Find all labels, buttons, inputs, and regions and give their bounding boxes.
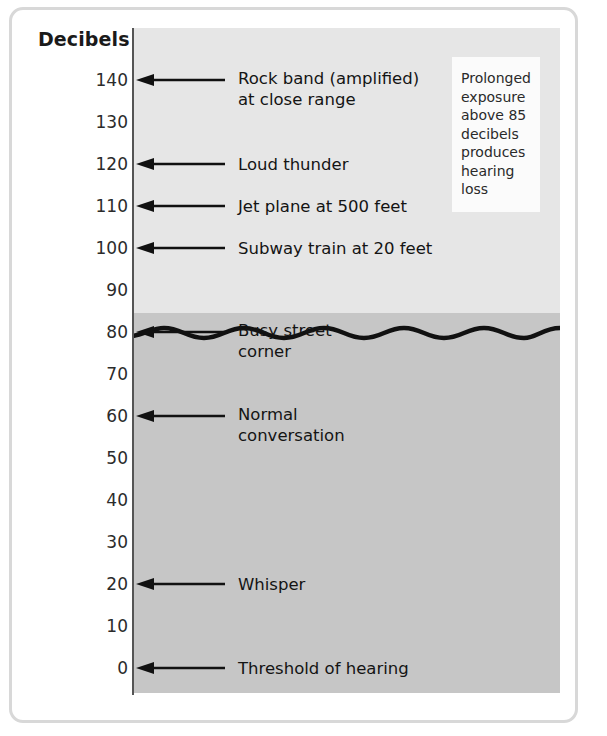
annotation-jet-plane: Jet plane at 500 feet (238, 196, 407, 217)
annotation-normal-conversation: Normal conversation (238, 404, 345, 446)
annotation-subway-train: Subway train at 20 feet (238, 238, 432, 259)
y-tick-60: 60 (36, 406, 128, 426)
y-tick-90: 90 (36, 280, 128, 300)
y-tick-100: 100 (36, 238, 128, 258)
y-tick-70: 70 (36, 364, 128, 384)
annotation-whisper: Whisper (238, 574, 305, 595)
y-tick-120: 120 (36, 154, 128, 174)
y-axis-tick-labels: 140 130 120 110 100 90 80 70 60 50 40 30… (28, 0, 128, 736)
callout-text: Prolonged exposure above 85 decibels pro… (461, 69, 540, 199)
threshold-wavy-line (133, 290, 560, 350)
y-tick-130: 130 (36, 112, 128, 132)
y-tick-50: 50 (36, 448, 128, 468)
callout-box: Prolonged exposure above 85 decibels pro… (452, 57, 540, 212)
annotation-loud-thunder: Loud thunder (238, 154, 348, 175)
decibel-scale-figure: Decibels 140 130 120 110 100 90 80 70 60… (0, 0, 607, 736)
y-tick-80: 80 (36, 322, 128, 342)
y-tick-30: 30 (36, 532, 128, 552)
y-tick-40: 40 (36, 490, 128, 510)
y-axis (132, 28, 134, 695)
annotation-rock-band: Rock band (amplified) at close range (238, 68, 419, 110)
annotation-busy-street: Busy street corner (238, 320, 332, 362)
annotation-threshold-of-hearing: Threshold of hearing (238, 658, 409, 679)
y-tick-140: 140 (36, 70, 128, 90)
y-tick-10: 10 (36, 616, 128, 636)
y-tick-20: 20 (36, 574, 128, 594)
y-tick-0: 0 (36, 658, 128, 678)
y-tick-110: 110 (36, 196, 128, 216)
